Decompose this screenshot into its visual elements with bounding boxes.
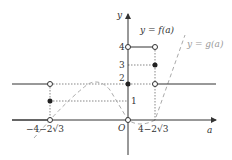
y-tick-1: 1 xyxy=(131,96,137,106)
y-axis-label: y xyxy=(116,10,123,20)
f-curve-label: y = f(a) xyxy=(139,25,175,35)
g-curve xyxy=(34,35,185,138)
y-tick-2: 2 xyxy=(119,73,125,83)
x-tick-left: −4−2√3 xyxy=(26,124,64,134)
diagram-canvas: y a O 4 3 2 1 −4−2√3 4−2√3 y = f(a) y = … xyxy=(0,0,232,160)
y-tick-4: 4 xyxy=(119,42,125,52)
g-curve-label: y = g(a) xyxy=(186,39,224,49)
y-tick-3: 3 xyxy=(119,60,125,70)
x-tick-right: 4−2√3 xyxy=(138,124,169,134)
origin-label: O xyxy=(118,123,126,133)
x-axis-label: a xyxy=(207,125,212,135)
f-graph xyxy=(12,47,216,120)
filled-points xyxy=(48,63,158,104)
